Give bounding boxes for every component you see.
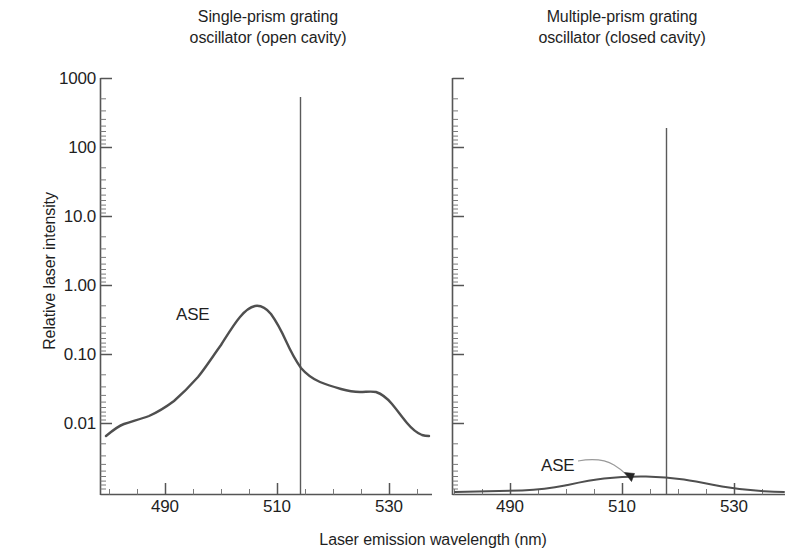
left-panel-axes bbox=[101, 78, 433, 495]
right-panel-axes bbox=[453, 78, 786, 495]
spectra-figure: Single-prism grating oscillator (open ca… bbox=[0, 0, 787, 557]
left-ase-curve bbox=[106, 306, 429, 436]
right-ase-leader-line bbox=[578, 460, 628, 476]
plot-canvas bbox=[0, 0, 787, 557]
